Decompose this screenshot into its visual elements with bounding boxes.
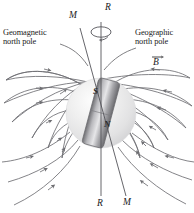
magnetic-axis-bottom-label: M [123, 197, 131, 208]
geomagnetic-north-pole-label: Geomagnetic north pole [3, 28, 47, 47]
rotation-axis-bottom-label: R [97, 198, 103, 209]
field-line-arrows-right [137, 69, 174, 186]
geographic-label-line2: north pole [135, 37, 173, 46]
rotation-axis-top-label: R [105, 2, 111, 13]
earth-magnetic-field-figure: Geomagnetic north pole Geographic north … [0, 0, 194, 213]
magnetic-field-vector-label: B [153, 57, 159, 68]
geomagnetic-leader-line [60, 44, 88, 66]
magnetic-axis-top-label: M [69, 10, 77, 21]
geographic-label-line1: Geographic [135, 28, 173, 37]
geographic-leader-line [104, 48, 136, 70]
magnet-south-pole-label: S [93, 86, 98, 96]
magnet-north-pole-label: N [104, 119, 111, 129]
geographic-north-pole-label: Geographic north pole [135, 28, 173, 47]
field-lines-left [2, 71, 82, 205]
geomagnetic-label-line1: Geomagnetic [3, 28, 47, 37]
geomagnetic-label-line2: north pole [3, 37, 47, 46]
